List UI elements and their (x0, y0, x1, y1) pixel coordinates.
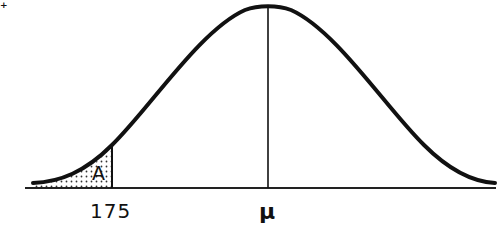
area-label-a: A (92, 162, 105, 184)
mean-label: μ (259, 199, 275, 224)
cutoff-label: 175 (90, 199, 131, 223)
normal-curve-diagram (0, 0, 500, 232)
bell-curve (33, 6, 495, 183)
corner-mark: + (0, 0, 8, 10)
